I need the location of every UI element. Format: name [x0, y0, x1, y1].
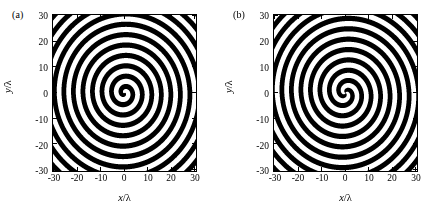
- tick-mark-x: [147, 15, 148, 19]
- tick-mark-y: [53, 118, 57, 119]
- panel-b: (b) 30 20 10 0 -10 -20 -30 -30 -20 -10 0…: [221, 0, 442, 221]
- panel-b-ytick-label: 30: [260, 11, 270, 21]
- panel-a-ytick-label: 30: [39, 11, 49, 21]
- panel-a-ytick-label: 0: [43, 89, 48, 99]
- panel-a: (a) 30 20 10 0 -10 -20 -30 -30 -20 -10 0…: [0, 0, 221, 221]
- tick-mark-x: [392, 167, 393, 171]
- tick-mark-y: [192, 41, 196, 42]
- tick-mark-y: [192, 143, 196, 144]
- tick-mark-x: [345, 15, 346, 19]
- tick-mark-x: [147, 167, 148, 171]
- tick-mark-x: [124, 167, 125, 171]
- tick-mark-y: [413, 66, 417, 67]
- panel-a-x-axis-title: x/λ: [52, 192, 197, 203]
- tick-mark-x: [298, 15, 299, 19]
- panel-a-y-axis-var: y: [2, 88, 13, 93]
- tick-mark-y: [53, 66, 57, 67]
- tick-mark-x: [321, 15, 322, 19]
- panel-a-xtick-label: -30: [48, 173, 61, 184]
- tick-mark-x: [321, 167, 322, 171]
- panel-b-spiral-image: [274, 15, 417, 171]
- panel-b-ytick-label: -10: [256, 115, 269, 125]
- panel-b-y-axis-var: y: [223, 88, 234, 93]
- tick-mark-x: [368, 15, 369, 19]
- tick-mark-y: [53, 169, 57, 170]
- panel-b-xtick-label: -30: [269, 173, 282, 184]
- panel-a-xtick-label: 10: [143, 173, 153, 184]
- tick-mark-y: [413, 169, 417, 170]
- tick-mark-x: [171, 167, 172, 171]
- panel-a-y-axis-ticklabels: 30 20 10 0 -10 -20 -30: [18, 14, 48, 172]
- tick-mark-x: [77, 167, 78, 171]
- panel-b-ytick-label: 0: [264, 89, 269, 99]
- tick-mark-x: [124, 15, 125, 19]
- tick-mark-x: [345, 167, 346, 171]
- tick-mark-y: [53, 143, 57, 144]
- panel-a-ytick-label: -10: [35, 115, 48, 125]
- panel-b-y-axis-title: y/λ: [223, 80, 234, 93]
- tick-mark-y: [413, 143, 417, 144]
- panel-a-ytick-label: 10: [39, 63, 49, 73]
- panel-b-y-axis-unit: λ: [223, 80, 234, 85]
- panel-b-xtick-label: 20: [387, 173, 397, 184]
- tick-mark-y: [274, 66, 278, 67]
- tick-mark-y: [274, 41, 278, 42]
- tick-mark-x: [392, 15, 393, 19]
- panel-a-y-axis-unit: λ: [2, 80, 13, 85]
- tick-mark-y: [192, 66, 196, 67]
- tick-mark-x: [77, 15, 78, 19]
- panel-b-ytick-label: 10: [260, 63, 270, 73]
- tick-mark-y: [192, 92, 196, 93]
- panel-b-y-axis-ticklabels: 30 20 10 0 -10 -20 -30: [239, 14, 269, 172]
- panel-a-x-axis-unit: λ: [126, 192, 131, 203]
- tick-mark-x: [368, 167, 369, 171]
- panel-a-xtick-label: 30: [190, 173, 200, 184]
- tick-mark-y: [274, 169, 278, 170]
- panel-b-xtick-label: 0: [343, 173, 348, 184]
- tick-mark-y: [53, 41, 57, 42]
- panel-b-y-axis-slash: /: [223, 85, 234, 88]
- tick-mark-x: [171, 15, 172, 19]
- tick-mark-y: [274, 118, 278, 119]
- tick-mark-y: [192, 118, 196, 119]
- tick-mark-y: [413, 41, 417, 42]
- panel-a-xtick-label: -20: [71, 173, 84, 184]
- tick-mark-y: [192, 15, 196, 16]
- panel-b-xtick-label: 10: [364, 173, 374, 184]
- panel-b-plot-area: [273, 14, 418, 172]
- tick-mark-x: [298, 167, 299, 171]
- panel-a-xtick-label: 20: [166, 173, 176, 184]
- tick-mark-y: [274, 143, 278, 144]
- tick-mark-y: [192, 169, 196, 170]
- panel-a-y-axis-slash: /: [2, 85, 13, 88]
- panel-b-ytick-label: -20: [256, 141, 269, 151]
- panel-b-xtick-label: -10: [316, 173, 329, 184]
- panel-b-x-axis-ticklabels: -30 -20 -10 0 10 20 30: [273, 173, 418, 187]
- tick-mark-y: [274, 15, 278, 16]
- panel-a-ytick-label: -20: [35, 141, 48, 151]
- tick-mark-y: [413, 92, 417, 93]
- tick-mark-y: [274, 92, 278, 93]
- panel-b-x-axis-unit: λ: [347, 192, 352, 203]
- panel-a-xtick-label: -10: [95, 173, 108, 184]
- tick-mark-y: [413, 15, 417, 16]
- tick-mark-x: [100, 15, 101, 19]
- figure-two-panel-spirals: (a) 30 20 10 0 -10 -20 -30 -30 -20 -10 0…: [0, 0, 443, 221]
- tick-mark-y: [53, 92, 57, 93]
- panel-a-ytick-label: -30: [35, 166, 48, 176]
- panel-a-plot-area: [52, 14, 197, 172]
- panel-a-ytick-label: 20: [39, 37, 49, 47]
- panel-b-ytick-label: -30: [256, 166, 269, 176]
- tick-mark-y: [53, 15, 57, 16]
- panel-b-x-axis-title: x/λ: [273, 192, 418, 203]
- panel-a-xtick-label: 0: [122, 173, 127, 184]
- panel-b-xtick-label: -20: [292, 173, 305, 184]
- panel-b-ytick-label: 20: [260, 37, 270, 47]
- tick-mark-x: [100, 167, 101, 171]
- panel-b-xtick-label: 30: [411, 173, 421, 184]
- panel-a-x-axis-ticklabels: -30 -20 -10 0 10 20 30: [52, 173, 197, 187]
- panel-a-spiral-image: [53, 15, 196, 171]
- panel-a-y-axis-title: y/λ: [2, 80, 13, 93]
- tick-mark-y: [413, 118, 417, 119]
